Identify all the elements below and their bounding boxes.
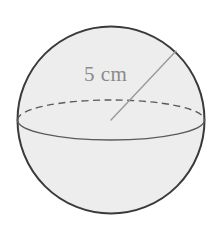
sphere-graphic [0, 0, 221, 241]
sphere-diagram: 5 cm [0, 0, 221, 241]
radius-measurement-label: 5 cm [84, 62, 127, 86]
